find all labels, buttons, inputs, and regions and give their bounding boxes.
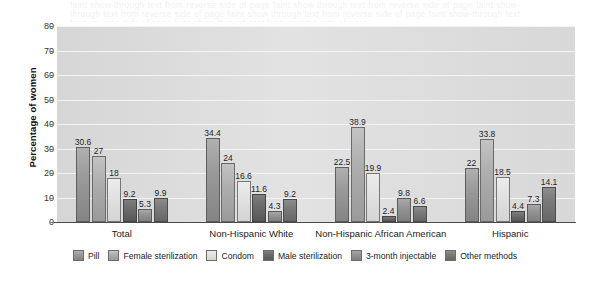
y-axis-tick-mark (50, 75, 54, 76)
bar-value-label: 9.9 (155, 188, 167, 198)
bar-value-label: 9.2 (124, 189, 136, 199)
x-axis-category-label: Hispanic (492, 228, 528, 239)
legend-item[interactable]: Condom (206, 250, 253, 261)
bar[interactable]: 7.3 (527, 204, 541, 222)
bar-value-label: 14.1 (541, 177, 558, 187)
bar-value-label: 7.3 (528, 194, 540, 204)
legend-label: Condom (221, 251, 253, 261)
bar[interactable]: 6.6 (413, 206, 427, 222)
y-axis-tick-label: 20 (8, 168, 54, 178)
bar-group: 2233.818.54.47.314.1 (465, 26, 557, 222)
bar[interactable]: 18 (107, 178, 121, 222)
legend-label: Female sterilization (123, 251, 197, 261)
bar[interactable]: 22 (465, 168, 479, 222)
y-axis-tick-mark (50, 198, 54, 199)
bar-value-label: 4.4 (512, 201, 524, 211)
bar-value-label: 19.9 (365, 163, 382, 173)
bar-value-label: 9.8 (398, 188, 410, 198)
legend-label: Male sterilization (278, 251, 342, 261)
x-axis-line (54, 222, 576, 223)
y-axis-tick-label: 70 (8, 46, 54, 56)
bar[interactable]: 14.1 (542, 187, 556, 222)
y-axis-tick-label: 30 (8, 144, 54, 154)
legend-item[interactable]: Pill (73, 250, 99, 261)
legend-swatch-icon (206, 250, 217, 261)
x-axis-category-label: Total (112, 228, 132, 239)
legend-label: 3-month injectable (366, 251, 436, 261)
legend-item[interactable]: Male sterilization (263, 250, 342, 261)
bar[interactable]: 9.8 (397, 198, 411, 222)
bar[interactable]: 18.5 (496, 177, 510, 222)
legend-label: Other methods (460, 251, 517, 261)
legend-swatch-icon (351, 250, 362, 261)
bar-value-label: 30.6 (75, 137, 92, 147)
bar-value-label: 22 (467, 158, 476, 168)
bar[interactable]: 9.2 (283, 199, 297, 222)
bar[interactable]: 33.8 (480, 139, 494, 222)
bar[interactable]: 22.5 (335, 167, 349, 222)
y-axis-tick-label: 80 (8, 21, 54, 31)
bar[interactable]: 19.9 (366, 173, 380, 222)
bar-value-label: 2.4 (383, 206, 395, 216)
legend-swatch-icon (73, 250, 84, 261)
y-axis-ticks: 01020304050607080 (0, 0, 54, 289)
legend-label: Pill (88, 251, 99, 261)
bar-chart: Percentage of women 30.627189.25.39.934.… (0, 0, 590, 289)
y-axis-tick-mark (50, 26, 54, 27)
y-axis-tick-label: 10 (8, 193, 54, 203)
bar-group: 34.42416.611.64.39.2 (206, 26, 298, 222)
bar[interactable]: 16.6 (237, 181, 251, 222)
legend-item[interactable]: Female sterilization (108, 250, 197, 261)
bar[interactable]: 4.4 (511, 211, 525, 222)
bar-value-label: 38.9 (349, 117, 366, 127)
bar-value-label: 6.6 (414, 196, 426, 206)
bar-value-label: 33.8 (479, 129, 496, 139)
legend-item[interactable]: 3-month injectable (351, 250, 436, 261)
y-axis-tick-mark (50, 173, 54, 174)
chart-legend: PillFemale sterilizationCondomMale steri… (0, 250, 590, 261)
bar-value-label: 18.5 (494, 167, 511, 177)
plot-area: 30.627189.25.39.934.42416.611.64.39.222.… (57, 26, 575, 222)
bar[interactable]: 4.3 (268, 211, 282, 222)
legend-swatch-icon (108, 250, 119, 261)
y-axis-tick-label: 0 (8, 217, 54, 227)
bar[interactable]: 34.4 (206, 138, 220, 222)
y-axis-tick-mark (50, 51, 54, 52)
legend-item[interactable]: Other methods (445, 250, 517, 261)
legend-swatch-icon (445, 250, 456, 261)
bar[interactable]: 5.3 (138, 209, 152, 222)
bar[interactable]: 27 (92, 156, 106, 222)
bar-value-label: 9.2 (284, 189, 296, 199)
x-axis-category-label: Non-Hispanic White (209, 228, 293, 239)
legend-swatch-icon (263, 250, 274, 261)
bar-value-label: 16.6 (235, 171, 252, 181)
bar-value-label: 18 (109, 168, 118, 178)
x-axis-category-label: Non-Hispanic African American (315, 228, 446, 239)
bar[interactable]: 38.9 (351, 127, 365, 222)
bar-value-label: 27 (94, 146, 103, 156)
bar[interactable]: 9.2 (123, 199, 137, 222)
bar-value-label: 22.5 (334, 157, 351, 167)
bar[interactable]: 24 (221, 163, 235, 222)
bar[interactable]: 30.6 (76, 147, 90, 222)
bar-value-label: 11.6 (251, 184, 267, 194)
bar-group: 22.538.919.92.49.86.6 (335, 26, 427, 222)
bar-value-label: 5.3 (139, 199, 151, 209)
y-axis-tick-label: 60 (8, 70, 54, 80)
bar[interactable]: 11.6 (252, 194, 266, 222)
bar-value-label: 4.3 (269, 201, 281, 211)
bar-group: 30.627189.25.39.9 (76, 26, 168, 222)
y-axis-tick-label: 50 (8, 95, 54, 105)
y-axis-tick-label: 40 (8, 119, 54, 129)
y-axis-tick-mark (50, 149, 54, 150)
y-axis-tick-mark (50, 100, 54, 101)
bar[interactable]: 9.9 (154, 198, 168, 222)
y-axis-tick-mark (50, 124, 54, 125)
bar-value-label: 34.4 (204, 128, 221, 138)
bar-value-label: 24 (223, 153, 232, 163)
